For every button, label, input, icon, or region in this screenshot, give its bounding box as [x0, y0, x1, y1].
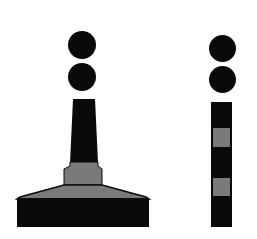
topmark-sphere-upper [209, 35, 236, 62]
pillar-body [211, 102, 232, 227]
topmark-sphere-upper [68, 31, 96, 59]
right-mark [209, 35, 236, 227]
gray-band-lower [213, 178, 230, 196]
black-base [17, 198, 149, 227]
marks-diagram [0, 0, 257, 239]
gray-skirt [17, 185, 149, 199]
spar-tower [70, 99, 98, 163]
gray-collar [64, 162, 102, 185]
topmark-sphere-lower [209, 66, 236, 93]
gray-band-upper [213, 128, 230, 147]
topmark-sphere-lower [68, 63, 96, 91]
left-mark [17, 31, 149, 227]
